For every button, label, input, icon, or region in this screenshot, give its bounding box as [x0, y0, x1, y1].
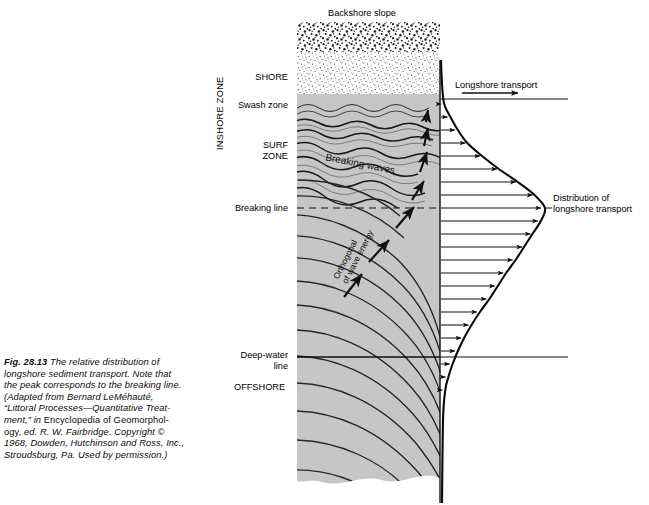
figure-caption: Fig. 28.13 The relative distribution ofl…: [4, 357, 204, 461]
transport-magnitude-arrows: [441, 104, 541, 390]
label-shore: SHORE: [200, 72, 288, 83]
label-offshore: OFFSHORE: [234, 382, 285, 393]
label-inshore-zone: INSHORE ZONE: [215, 30, 225, 150]
label-swash-zone: Swash zone: [190, 100, 288, 111]
label-breaking-line: Breaking line: [186, 203, 288, 214]
figure-container: Backshore slope SHORE Swash zone SURF ZO…: [0, 0, 649, 505]
label-distribution-of-longshore-transport: Distribution of longshore transport: [553, 193, 632, 215]
plot-reference-lines: [440, 99, 568, 357]
water-body: [297, 94, 440, 484]
label-deep-water-line: Deep-water line: [190, 350, 288, 371]
label-backshore-slope: Backshore slope: [328, 8, 396, 19]
label-longshore-transport: Longshore transport: [455, 80, 537, 90]
backshore-slope-texture: [297, 22, 440, 52]
distribution-curve: [441, 60, 545, 503]
label-surf-zone: SURF ZONE: [196, 140, 288, 161]
